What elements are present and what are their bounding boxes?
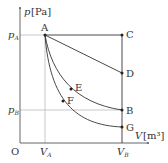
point-G xyxy=(121,126,124,129)
tick-pB: pB xyxy=(8,104,19,116)
tick-VB: VB xyxy=(117,146,129,158)
curve-A-E-B xyxy=(45,35,122,110)
point-A xyxy=(44,34,47,37)
label-B: B xyxy=(126,105,133,116)
curve-A-F-G xyxy=(45,35,122,127)
point-F xyxy=(62,100,65,103)
point-C xyxy=(121,34,124,37)
point-E xyxy=(70,88,73,91)
x-axis-arrow-icon xyxy=(147,142,149,144)
label-D: D xyxy=(126,68,134,79)
label-E: E xyxy=(75,82,82,93)
point-D xyxy=(121,72,124,75)
label-C: C xyxy=(126,29,134,40)
label-G: G xyxy=(126,122,134,133)
point-B xyxy=(121,109,124,112)
line-A-D xyxy=(45,35,122,73)
label-F: F xyxy=(67,95,74,106)
x-axis-unit: [m³] xyxy=(143,130,164,141)
y-axis-arrow-icon xyxy=(19,7,21,9)
y-axis-label: p xyxy=(24,6,31,17)
pv-diagram: A C D B G E F p [Pa] V [m³] O pA pB VA V… xyxy=(0,0,168,163)
origin-label: O xyxy=(11,146,19,157)
tick-VA: VA xyxy=(40,146,52,158)
tick-pA: pA xyxy=(8,29,19,41)
label-A: A xyxy=(40,22,49,33)
y-axis-unit: [Pa] xyxy=(31,6,51,17)
